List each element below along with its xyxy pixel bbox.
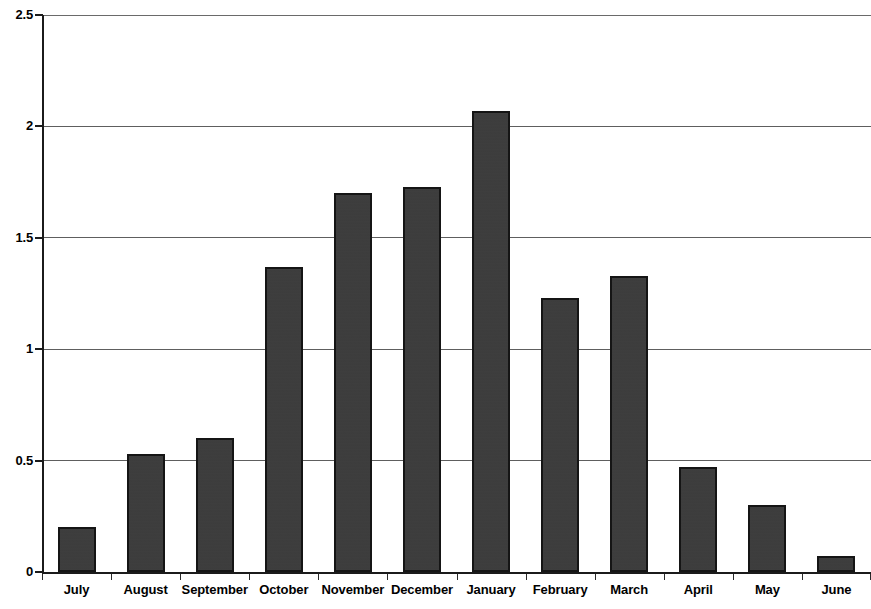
bar-november [334,193,372,572]
x-tick-mark-0 [42,574,43,580]
x-tick-mark-10 [733,574,734,580]
bar-january [472,111,510,572]
bar-december [403,187,441,572]
plot-area [42,15,871,572]
x-label-november: November [321,583,384,597]
x-label-september: September [182,583,248,597]
x-tick-mark-4 [318,574,319,580]
x-label-april: April [684,583,713,597]
bar-may [748,505,786,572]
x-tick-mark-8 [595,574,596,580]
bar-july [58,527,96,572]
bar-april [679,467,717,572]
x-tick-mark-6 [457,574,458,580]
x-label-may: May [755,583,780,597]
x-label-january: January [466,583,515,597]
x-tick-mark-7 [526,574,527,580]
x-label-march: March [610,583,648,597]
y-axis-tick-labels: 00.511.522.5 [0,0,33,609]
x-tick-mark-11 [802,574,803,580]
y-tick-label-0.5: 0.5 [1,454,33,467]
bar-october [265,267,303,572]
x-label-december: December [391,583,453,597]
x-label-july: July [64,583,90,597]
x-tick-mark-5 [387,574,388,580]
bar-chart: 00.511.522.5 JulyAugustSeptemberOctoberN… [0,0,871,609]
bar-february [541,298,579,572]
x-axis-category-labels: JulyAugustSeptemberOctoberNovemberDecemb… [0,583,871,609]
bar-march [610,276,648,572]
y-tick-label-1: 1 [1,342,33,355]
bar-september [196,438,234,572]
bar-june [817,556,855,572]
x-tick-mark-9 [664,574,665,580]
x-tick-mark-1 [111,574,112,580]
x-tick-mark-3 [249,574,250,580]
y-tick-label-2.5: 2.5 [1,8,33,21]
y-tick-label-1.5: 1.5 [1,231,33,244]
x-label-august: August [124,583,168,597]
x-label-june: June [821,583,851,597]
x-tick-mark-2 [180,574,181,580]
x-label-february: February [533,583,588,597]
y-tick-label-2: 2 [1,119,33,132]
bar-august [127,454,165,572]
x-label-october: October [259,583,308,597]
y-tick-label-0: 0 [1,565,33,578]
